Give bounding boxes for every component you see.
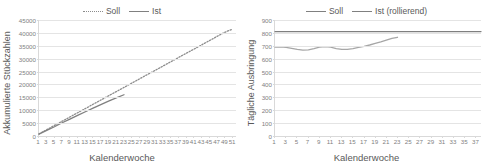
y-axis-tick-label: 45000 [19, 17, 36, 24]
series-lines-left [39, 20, 236, 136]
x-axis-tick-label: 31 [438, 138, 445, 145]
y-axis-tick-label: 600 [262, 55, 272, 62]
plot-canvas-left: 0500010000150002000025000300003500040000… [38, 20, 236, 136]
legend-entry-soll-right[interactable]: Soll [306, 6, 343, 16]
x-axis-tick-label: 29 [143, 138, 150, 145]
y-axis-title-left-text: Akkumulierte Stückzahlen [2, 31, 12, 135]
gridline [275, 110, 481, 111]
y-axis-tick-label: 20000 [19, 81, 36, 88]
x-axis-tick-label: 27 [416, 138, 423, 145]
series-lines-right [275, 20, 481, 136]
x-axis-tick-label: 15 [89, 138, 96, 145]
y-tickmark [273, 33, 275, 34]
x-axis-tick-label: 3 [44, 138, 47, 145]
y-axis-title-right-text: Tägliche Ausbringung [246, 39, 256, 126]
x-axis-tick-label: 31 [151, 138, 158, 145]
x-axis-title-left: Kalenderwoche [0, 152, 244, 163]
y-tickmark [37, 33, 39, 34]
y-tickmark [37, 84, 39, 85]
gridline [39, 72, 236, 73]
legend-label-soll: Soll [106, 6, 120, 16]
y-tickmark [273, 84, 275, 85]
y-axis-tick-label: 500 [262, 68, 272, 75]
gridline [39, 59, 236, 60]
gridline [39, 33, 236, 34]
y-tickmark [273, 123, 275, 124]
y-axis-tick-label: 30000 [19, 55, 36, 62]
legend-swatch-solid-icon [129, 11, 149, 12]
x-axis-tick-label: 7 [306, 138, 309, 145]
y-axis-tick-label: 300 [262, 94, 272, 101]
x-axis-ticks-left: 1357911131517192123252729313335373941434… [38, 136, 236, 148]
x-axis-tick-label: 39 [182, 138, 189, 145]
y-axis-title-right: Tägliche Ausbringung [244, 0, 258, 165]
x-axis-tick-label: 11 [74, 138, 80, 145]
x-axis-tick-label: 5 [295, 138, 298, 145]
x-axis-tick-label: 49 [221, 138, 228, 145]
x-axis-tick-label: 1 [272, 138, 275, 145]
gridline [275, 84, 481, 85]
gridline [275, 72, 481, 73]
x-axis-tick-label: 37 [174, 138, 181, 145]
x-axis-title-right: Kalenderwoche [244, 152, 489, 163]
charts-dashboard: Soll Ist Akkumulierte Stückzahlen 050001… [0, 0, 489, 165]
y-axis-tick-label: 5000 [22, 120, 36, 127]
y-axis-tick-label: 10000 [19, 107, 36, 114]
chart-legend-right: Soll Ist (rollierend) [244, 4, 489, 18]
x-axis-tick-label: 11 [327, 138, 333, 145]
plot-area-left: 0500010000150002000025000300003500040000… [38, 20, 236, 136]
y-tickmark [37, 123, 39, 124]
x-axis-tick-label: 17 [360, 138, 367, 145]
legend-label-ist: Ist [152, 6, 161, 16]
series-line-ist-rollierend [275, 37, 397, 50]
x-axis-tick-label: 15 [349, 138, 356, 145]
gridline [39, 84, 236, 85]
gridline [39, 97, 236, 98]
y-axis-tick-label: 35000 [19, 42, 36, 49]
x-axis-tick-label: 33 [159, 138, 166, 145]
gridline [275, 97, 481, 98]
y-axis-tick-label: 100 [262, 120, 272, 127]
x-axis-tick-label: 43 [198, 138, 205, 145]
x-axis-tick-label: 33 [450, 138, 457, 145]
x-axis-tick-label: 45 [205, 138, 212, 145]
y-axis-tick-label: 25000 [19, 68, 36, 75]
plot-area-right: 0100200300400500600700800900 13579111315… [274, 20, 481, 136]
legend-swatch-dotted-icon [83, 11, 103, 12]
y-tickmark [37, 59, 39, 60]
y-tickmark [37, 97, 39, 98]
chart-taegliche-ausbringung: Soll Ist (rollierend) Tägliche Ausbringu… [244, 0, 489, 165]
x-axis-tick-label: 13 [338, 138, 345, 145]
x-axis-tick-label: 23 [120, 138, 127, 145]
y-axis-tick-label: 15000 [19, 94, 36, 101]
x-axis-tick-label: 37 [472, 138, 479, 145]
legend-label-ist-rollierend: Ist (rollierend) [375, 6, 427, 16]
gridline [39, 123, 236, 124]
y-tickmark [273, 59, 275, 60]
x-axis-tick-label: 25 [405, 138, 412, 145]
y-tickmark [37, 46, 39, 47]
chart-akkumulierte-stueckzahlen: Soll Ist Akkumulierte Stückzahlen 050001… [0, 0, 244, 165]
x-axis-tick-label: 9 [317, 138, 320, 145]
x-axis-tick-label: 41 [190, 138, 197, 145]
x-axis-tick-label: 21 [382, 138, 389, 145]
gridline [275, 33, 481, 34]
legend-entry-soll[interactable]: Soll [83, 6, 120, 16]
y-axis-tick-label: 40000 [19, 29, 36, 36]
x-axis-tick-label: 7 [60, 138, 63, 145]
y-axis-tick-label: 700 [262, 42, 272, 49]
legend-entry-ist[interactable]: Ist [129, 6, 161, 16]
x-axis-ticks-right: 135791113151719212325272931333537 [274, 136, 481, 148]
y-tickmark [273, 46, 275, 47]
y-axis-tick-label: 800 [262, 29, 272, 36]
x-axis-tick-label: 13 [81, 138, 88, 145]
x-axis-tick-label: 17 [97, 138, 104, 145]
gridline [39, 20, 236, 21]
x-axis-tick-label: 1 [36, 138, 39, 145]
gridline [39, 110, 236, 111]
legend-entry-ist-rollierend[interactable]: Ist (rollierend) [352, 6, 427, 16]
y-axis-tick-label: 400 [262, 81, 272, 88]
gridline [275, 123, 481, 124]
x-axis-tick-label: 27 [135, 138, 142, 145]
y-axis-title-left: Akkumulierte Stückzahlen [0, 0, 14, 165]
